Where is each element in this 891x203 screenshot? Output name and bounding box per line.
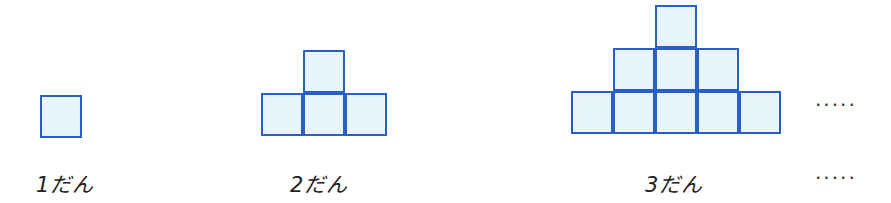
square	[613, 91, 655, 134]
label-continuation-dots: ·····	[815, 166, 857, 190]
square	[739, 91, 781, 134]
square	[697, 91, 739, 134]
label-1-stage: 1だん	[36, 168, 94, 198]
square	[40, 95, 82, 138]
square	[303, 93, 345, 136]
label-3-stage: 3だん	[645, 168, 703, 198]
label-2-stage: 2だん	[290, 168, 348, 198]
square	[655, 48, 697, 91]
square	[697, 48, 739, 91]
square	[571, 91, 613, 134]
square	[261, 93, 303, 136]
square	[655, 91, 697, 134]
square	[303, 50, 345, 93]
square	[345, 93, 387, 136]
square	[613, 48, 655, 91]
figure-continuation-dots: ·····	[815, 93, 857, 117]
square	[655, 5, 697, 48]
